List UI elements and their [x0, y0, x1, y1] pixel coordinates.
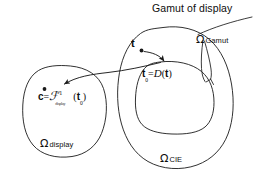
label-omega-gamut: ΩGamut: [196, 30, 228, 46]
omega-symbol: Ω: [196, 33, 204, 46]
vector-t-glyph: t: [131, 37, 135, 49]
mapping-operator-d: D: [154, 67, 162, 79]
omega-gamut-subscript: Gamut: [205, 36, 228, 45]
t0-argument-subscript: 0: [80, 100, 83, 106]
omega-symbol: Ω: [160, 152, 168, 165]
label-c-equation: c=ℱ-1display(t0): [38, 90, 86, 105]
point-t-dot: [140, 49, 144, 53]
close-paren: ): [83, 91, 86, 102]
close-paren: ): [168, 68, 171, 79]
label-vector-t: t: [131, 38, 135, 49]
label-omega-display: Ωdisplay: [40, 134, 73, 150]
figure-title: Gamut of display: [152, 3, 232, 14]
label-t0-equation: t0=D(t): [142, 68, 172, 82]
f-subscript: display: [55, 101, 65, 106]
omega-display-subscript: display: [49, 140, 73, 149]
leader-omega-gamut: [201, 41, 205, 82]
arrow-t-to-t0: [144, 52, 164, 62]
t0-subscript: 0: [145, 77, 148, 83]
inverse-exponent: -1: [57, 90, 62, 96]
omega-cie-subscript: CIE: [169, 155, 182, 164]
omega-symbol: Ω: [40, 137, 48, 150]
label-omega-cie: ΩCIE: [160, 149, 182, 165]
figure-root: Gamut of display ΩGamut Ωdisplay ΩCIE t …: [0, 0, 261, 175]
